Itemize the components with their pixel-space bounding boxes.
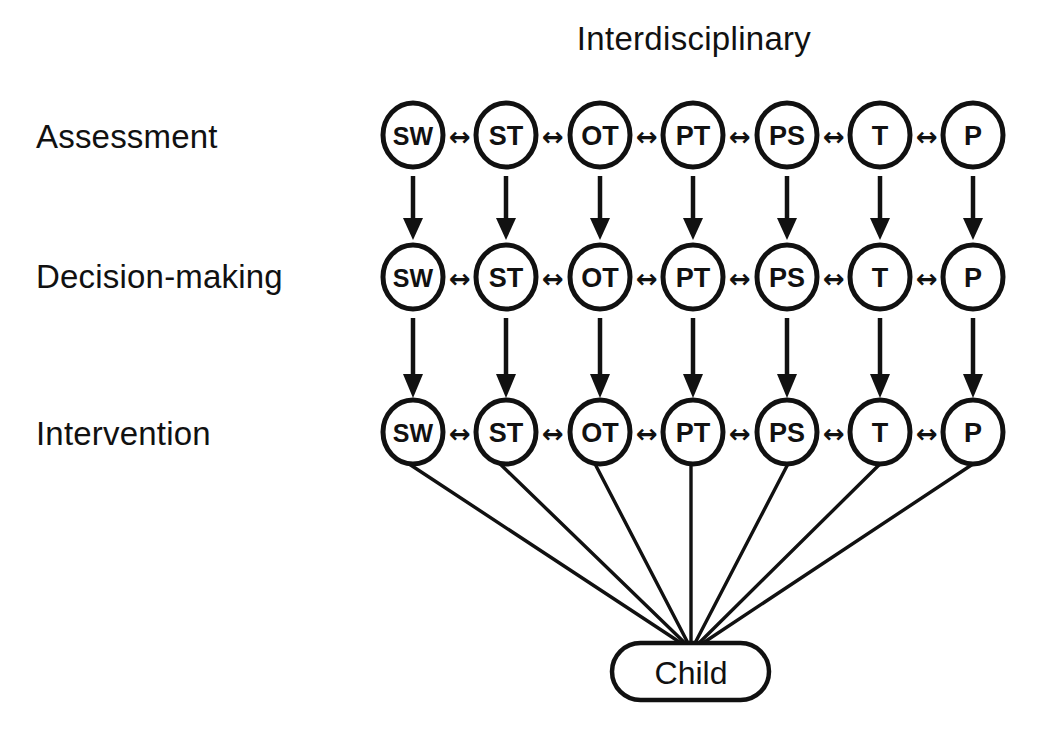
bidirectional-arrow-icon: ↔ (916, 122, 938, 152)
bidirectional-arrow-icon: ↔ (823, 264, 845, 294)
node-label: ST (489, 418, 524, 448)
bidirectional-arrow-icon: ↔ (729, 419, 751, 449)
node-child[interactable]: Child (612, 643, 769, 700)
node-decision-ot[interactable]: OT (570, 245, 630, 309)
bidirectional-arrow-icon: ↔ (449, 122, 471, 152)
diagram-title: Interdisciplinary (577, 20, 812, 57)
node-label: SW (393, 419, 434, 447)
row-label-decision-making: Decision-making (36, 258, 283, 295)
row-label-assessment: Assessment (36, 118, 218, 155)
node-intervention-pt[interactable]: PT (663, 400, 723, 464)
node-label: ST (489, 263, 524, 293)
node-decision-st[interactable]: ST (476, 245, 536, 309)
node-intervention-sw[interactable]: SW (383, 400, 443, 464)
node-label: OT (581, 121, 619, 151)
node-assessment-ps[interactable]: PS (757, 103, 817, 167)
node-intervention-p[interactable]: P (943, 400, 1003, 464)
down-arrow-icon (403, 176, 423, 240)
line-st-to-child (496, 460, 687, 645)
node-intervention-ot[interactable]: OT (570, 400, 630, 464)
vertical-arrows-assessment-to-decision (403, 176, 983, 240)
bidirectional-arrow-icon: ↔ (449, 419, 471, 449)
down-arrow-icon (403, 318, 423, 398)
down-arrow-icon (870, 318, 890, 398)
down-arrow-icon (590, 318, 610, 398)
bidirectional-arrow-icon: ↔ (449, 264, 471, 294)
down-arrow-icon (683, 176, 703, 240)
node-intervention-ps[interactable]: PS (757, 400, 817, 464)
node-label: ST (489, 121, 524, 151)
node-label: OT (581, 418, 619, 448)
node-label: SW (393, 264, 434, 292)
node-label: PS (769, 418, 805, 448)
node-label: T (872, 263, 889, 293)
node-row-decision-making: SW ↔ ST ↔ OT ↔ PT ↔ PS ↔ (383, 245, 1003, 309)
node-label: P (964, 263, 982, 293)
bidirectional-arrow-icon: ↔ (916, 419, 938, 449)
node-intervention-st[interactable]: ST (476, 400, 536, 464)
bidirectional-arrow-icon: ↔ (636, 122, 658, 152)
node-label: P (964, 418, 982, 448)
node-label: P (964, 121, 982, 151)
node-decision-pt[interactable]: PT (663, 245, 723, 309)
node-label: T (872, 121, 889, 151)
node-label: OT (581, 263, 619, 293)
down-arrow-icon (777, 176, 797, 240)
node-row-intervention: SW ↔ ST ↔ OT ↔ PT ↔ PS ↔ (383, 400, 1003, 464)
node-assessment-sw[interactable]: SW (383, 103, 443, 167)
row-label-intervention: Intervention (36, 415, 211, 452)
bidirectional-arrow-icon: ↔ (542, 264, 564, 294)
bidirectional-arrow-icon: ↔ (729, 264, 751, 294)
node-label: PS (769, 121, 805, 151)
down-arrow-icon (777, 318, 797, 398)
node-decision-p[interactable]: P (943, 245, 1003, 309)
node-assessment-ot[interactable]: OT (570, 103, 630, 167)
node-assessment-st[interactable]: ST (476, 103, 536, 167)
node-decision-sw[interactable]: SW (383, 245, 443, 309)
bidirectional-arrow-icon: ↔ (542, 122, 564, 152)
down-arrow-icon (496, 176, 516, 240)
bidirectional-arrow-icon: ↔ (729, 122, 751, 152)
bidirectional-arrow-icon: ↔ (636, 419, 658, 449)
node-decision-ps[interactable]: PS (757, 245, 817, 309)
down-arrow-icon (963, 176, 983, 240)
node-label: PT (676, 263, 711, 293)
node-label: PT (676, 418, 711, 448)
interdisciplinary-diagram: Interdisciplinary Assessment Decision-ma… (0, 0, 1049, 729)
converging-lines-to-child (400, 458, 982, 645)
node-label: T (872, 418, 889, 448)
bidirectional-arrow-icon: ↔ (916, 264, 938, 294)
node-assessment-t[interactable]: T (850, 103, 910, 167)
down-arrow-icon (963, 318, 983, 398)
line-t-to-child (697, 460, 884, 645)
node-assessment-pt[interactable]: PT (663, 103, 723, 167)
down-arrow-icon (683, 318, 703, 398)
node-row-assessment: SW ↔ ST ↔ OT ↔ PT ↔ PS ↔ (383, 103, 1003, 167)
bidirectional-arrow-icon: ↔ (542, 419, 564, 449)
bidirectional-arrow-icon: ↔ (823, 419, 845, 449)
node-decision-t[interactable]: T (850, 245, 910, 309)
child-label: Child (655, 655, 728, 691)
down-arrow-icon (870, 176, 890, 240)
down-arrow-icon (590, 176, 610, 240)
node-label: PT (676, 121, 711, 151)
bidirectional-arrow-icon: ↔ (823, 122, 845, 152)
vertical-arrows-decision-to-intervention (403, 318, 983, 398)
node-label: PS (769, 263, 805, 293)
node-intervention-t[interactable]: T (850, 400, 910, 464)
node-assessment-p[interactable]: P (943, 103, 1003, 167)
diagram-canvas: Interdisciplinary Assessment Decision-ma… (0, 0, 1049, 729)
down-arrow-icon (496, 318, 516, 398)
node-label: SW (393, 122, 434, 150)
bidirectional-arrow-icon: ↔ (636, 264, 658, 294)
